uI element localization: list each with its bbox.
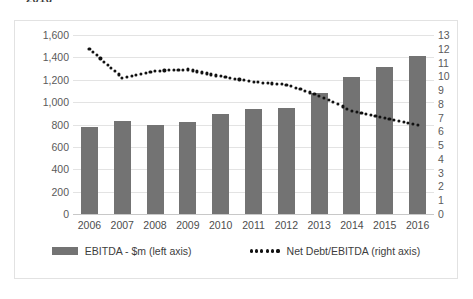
line-dot xyxy=(332,100,335,103)
legend-item-2[interactable]: Net Debt/EBITDA (right axis) xyxy=(250,245,421,257)
bar-2008 xyxy=(147,125,164,215)
right-axis-tick-label: 3 xyxy=(438,168,444,178)
left-y-axis: 1,6001,4001,2001,0008006004002000 xyxy=(25,35,69,214)
x-axis-tick-label-2009: 2009 xyxy=(176,219,199,231)
right-axis-tick-label: 2 xyxy=(438,181,444,191)
line-dot xyxy=(294,86,297,89)
line-dot xyxy=(364,112,367,115)
legend-dotted-line-icon xyxy=(250,249,280,253)
line-dot xyxy=(91,50,94,53)
line-dot xyxy=(266,81,269,84)
line-dot xyxy=(205,72,208,75)
x-axis-tick-label-2016: 2016 xyxy=(406,219,429,231)
line-dot xyxy=(163,69,166,72)
right-axis-tick-label: 8 xyxy=(438,99,444,109)
x-axis-tick-label-2011: 2011 xyxy=(242,219,265,231)
right-axis-tick-label: 12 xyxy=(438,44,450,54)
x-axis-tick-label-2015: 2015 xyxy=(373,219,396,231)
gridline xyxy=(73,214,434,215)
x-axis-tick-label-2013: 2013 xyxy=(307,219,330,231)
plot-area xyxy=(73,35,434,214)
legend-label: Net Debt/EBITDA (right axis) xyxy=(287,245,421,257)
x-axis-tick-label-2008: 2008 xyxy=(143,219,166,231)
line-dot xyxy=(247,79,250,82)
right-axis-tick-label: 9 xyxy=(438,85,444,95)
line-dot xyxy=(113,70,116,73)
line-dot xyxy=(252,80,255,83)
left-axis-tick-label: 1,600 xyxy=(43,30,69,40)
left-axis-tick-label: 600 xyxy=(51,142,69,152)
bar-2011 xyxy=(245,109,262,214)
line-dot xyxy=(224,76,227,79)
line-dot xyxy=(261,81,264,84)
bar-2014 xyxy=(343,77,360,214)
left-axis-tick-label: 0 xyxy=(63,209,69,219)
right-axis-tick-label: 10 xyxy=(438,71,450,81)
right-axis-tick-label: 5 xyxy=(438,140,444,150)
clipped-title-fragment: 2016 xyxy=(26,0,52,2)
bar-2012 xyxy=(278,108,295,214)
x-axis-tick-label-2007: 2007 xyxy=(111,219,134,231)
left-axis-tick-label: 400 xyxy=(51,164,69,174)
line-dot xyxy=(95,54,98,57)
legend-bar-swatch-icon xyxy=(52,247,78,255)
right-axis-tick-label: 4 xyxy=(438,154,444,164)
line-dot xyxy=(182,68,185,71)
left-axis-tick-label: 200 xyxy=(51,187,69,197)
line-dot xyxy=(257,81,260,84)
right-axis-tick-label: 11 xyxy=(438,58,449,68)
line-dot xyxy=(117,73,120,76)
line-dot xyxy=(99,57,102,60)
line-dot xyxy=(196,70,199,73)
x-axis-tick-label-2014: 2014 xyxy=(340,219,363,231)
right-axis-tick-label: 7 xyxy=(438,113,444,123)
chart-legend: EBITDA - $m (left axis)Net Debt/EBITDA (… xyxy=(15,245,457,257)
line-dot xyxy=(271,82,274,85)
line-dot xyxy=(200,71,203,74)
line-dot xyxy=(275,82,278,85)
line-dot xyxy=(280,83,283,86)
line-dot xyxy=(153,69,156,72)
line-dot xyxy=(130,74,133,77)
line-dot xyxy=(210,73,213,76)
left-axis-tick-label: 1,000 xyxy=(43,97,69,107)
x-axis: 2006200720082009201020112012201320142015… xyxy=(73,217,434,237)
line-dot xyxy=(285,83,288,86)
right-axis-tick-label: 0 xyxy=(438,209,444,219)
line-dot xyxy=(149,70,152,73)
right-y-axis: 131211109876543210 xyxy=(438,35,456,214)
bar-2013 xyxy=(311,93,328,214)
bar-2015 xyxy=(376,67,393,214)
line-dot xyxy=(243,79,246,82)
x-axis-tick-label-2010: 2010 xyxy=(209,219,232,231)
line-dot xyxy=(168,69,171,72)
left-axis-tick-label: 1,200 xyxy=(43,75,69,85)
line-dot xyxy=(402,120,405,123)
right-axis-tick-label: 6 xyxy=(438,126,444,136)
line-dot xyxy=(360,111,363,114)
line-dot xyxy=(177,68,180,71)
legend-item-1[interactable]: EBITDA - $m (left axis) xyxy=(52,245,192,257)
left-axis-tick-label: 1,400 xyxy=(43,52,69,62)
bar-2016 xyxy=(409,56,426,214)
line-dot xyxy=(369,113,372,116)
line-dot xyxy=(102,60,105,63)
gridline xyxy=(73,35,434,36)
line-dot xyxy=(214,74,217,77)
x-axis-tick-label-2006: 2006 xyxy=(78,219,101,231)
line-dot xyxy=(186,68,189,71)
line-dot xyxy=(110,66,113,69)
line-dot xyxy=(336,103,339,106)
line-dot xyxy=(139,72,142,75)
line-dot xyxy=(106,63,109,66)
line-dot xyxy=(144,71,147,74)
legend-label: EBITDA - $m (left axis) xyxy=(85,245,192,257)
line-dot xyxy=(397,119,400,122)
bar-2007 xyxy=(114,121,131,214)
bar-2006 xyxy=(81,127,98,214)
line-dot xyxy=(88,47,91,50)
chart-frame: 1,6001,4001,2001,0008006004002000 131211… xyxy=(14,20,458,279)
line-dot xyxy=(299,88,302,91)
line-dot xyxy=(191,69,194,72)
right-axis-tick-label: 13 xyxy=(438,30,450,40)
